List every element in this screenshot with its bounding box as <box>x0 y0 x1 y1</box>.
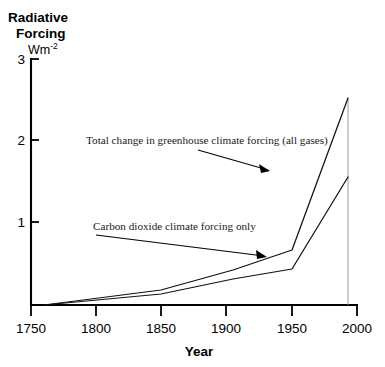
y-axis-title-line2: Forcing <box>16 26 66 41</box>
y-tick-label-1: 1 <box>17 215 25 230</box>
y-axis-unit-base: Wm <box>28 43 50 57</box>
x-axis-title: Year <box>185 344 214 359</box>
series-line-total-greenhouse-forcing <box>44 98 348 305</box>
annotation-total-greenhouse-leader <box>198 150 268 170</box>
y-axis-unit: Wm-2 <box>28 41 58 57</box>
y-axis-title-line1: Radiative <box>8 10 69 25</box>
annotation-total-greenhouse-label: Total change in greenhouse climate forci… <box>86 134 328 147</box>
radiative-forcing-line-chart: Radiative Forcing Wm-2 3 2 1 1750 1800 1… <box>0 0 385 367</box>
y-axis-unit-exponent: -2 <box>50 41 58 51</box>
x-tick-label-1950: 1950 <box>277 321 307 336</box>
x-tick-label-1850: 1850 <box>146 321 176 336</box>
chart-figure: Radiative Forcing Wm-2 3 2 1 1750 1800 1… <box>0 0 385 367</box>
x-tick-label-2000: 2000 <box>342 321 372 336</box>
annotation-carbon-dioxide-leader <box>96 235 264 256</box>
annotation-total-greenhouse-arrowhead <box>259 164 270 173</box>
y-tick-label-2: 2 <box>17 133 25 148</box>
series-line-carbon-dioxide-only <box>44 177 348 305</box>
annotation-carbon-dioxide-arrowhead <box>256 250 267 259</box>
annotation-carbon-dioxide-label: Carbon dioxide climate forcing only <box>93 220 256 232</box>
x-tick-label-1800: 1800 <box>81 321 111 336</box>
y-tick-label-3: 3 <box>17 52 25 67</box>
x-tick-label-1750: 1750 <box>16 321 46 336</box>
x-tick-label-1900: 1900 <box>211 321 241 336</box>
